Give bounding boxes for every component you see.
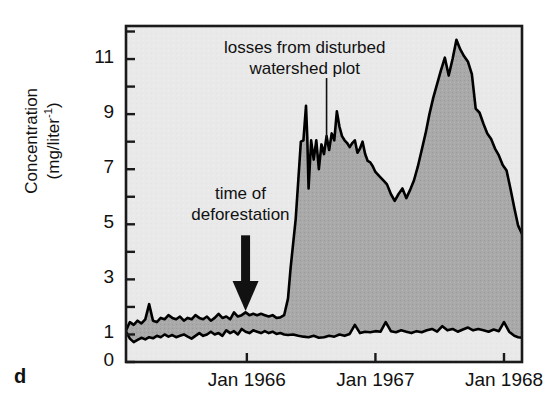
y-axis-units-prefix: (mg/liter: [44, 118, 63, 179]
y-tick-label-5: 5: [80, 211, 114, 233]
y-tick-label-9: 9: [80, 101, 114, 123]
figure-panel-d: d Concentration (mg/liter-1): [0, 0, 543, 411]
y-tick-label-1: 1: [80, 321, 114, 343]
y-axis-units-suffix: ): [44, 102, 63, 108]
y-axis-label-line1: Concentration: [22, 88, 41, 194]
deforestation-annotation-line1: time of: [165, 184, 315, 205]
deforestation-annotation-line2: deforestation: [165, 205, 315, 226]
x-tick-label-jan-1967: Jan 1967: [315, 369, 435, 391]
disturbed-annotation-line1: losses from disturbed: [190, 38, 420, 59]
disturbed-plot-annotation: losses from disturbed watershed plot: [190, 38, 420, 79]
x-tick-label-jan-1968: Jan 1968: [444, 369, 543, 391]
y-tick-label-0: 0: [80, 349, 114, 371]
x-tick-label-jan-1966: Jan 1966: [187, 369, 307, 391]
y-axis-label-line2: (mg/liter-1): [42, 46, 64, 236]
y-tick-label-3: 3: [80, 266, 114, 288]
y-tick-label-11: 11: [80, 46, 114, 68]
y-axis-label: Concentration (mg/liter-1): [22, 46, 64, 236]
deforestation-annotation: time of deforestation: [165, 184, 315, 225]
y-tick-label-7: 7: [80, 156, 114, 178]
y-axis-units-exponent: -1: [42, 108, 54, 118]
disturbed-annotation-line2: watershed plot: [190, 59, 420, 80]
panel-label: d: [14, 365, 26, 388]
